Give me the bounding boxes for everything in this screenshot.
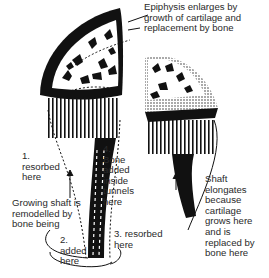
left-growth-plate bbox=[48, 98, 120, 138]
label-step1-resorbed: 1. resorbed here bbox=[22, 151, 60, 183]
label-step4-bone-added: 4. Bone added inside tunnels here bbox=[103, 144, 134, 208]
right-growth-plate bbox=[148, 120, 214, 154]
right-epiphysis bbox=[145, 56, 218, 122]
label-step2-added: 2. added here bbox=[60, 235, 87, 267]
label-shaft-elongates: Shaft elongates because cartilage grows … bbox=[205, 174, 255, 259]
label-remodelled-shaft: Growing shaft is remodelled by bone bein… bbox=[12, 198, 81, 230]
left-epiphysis bbox=[40, 8, 130, 100]
label-epiphysis: Epiphysis enlarges by growth of cartilag… bbox=[144, 2, 241, 34]
label-step3-resorbed: 3. resorbed here bbox=[114, 229, 163, 250]
